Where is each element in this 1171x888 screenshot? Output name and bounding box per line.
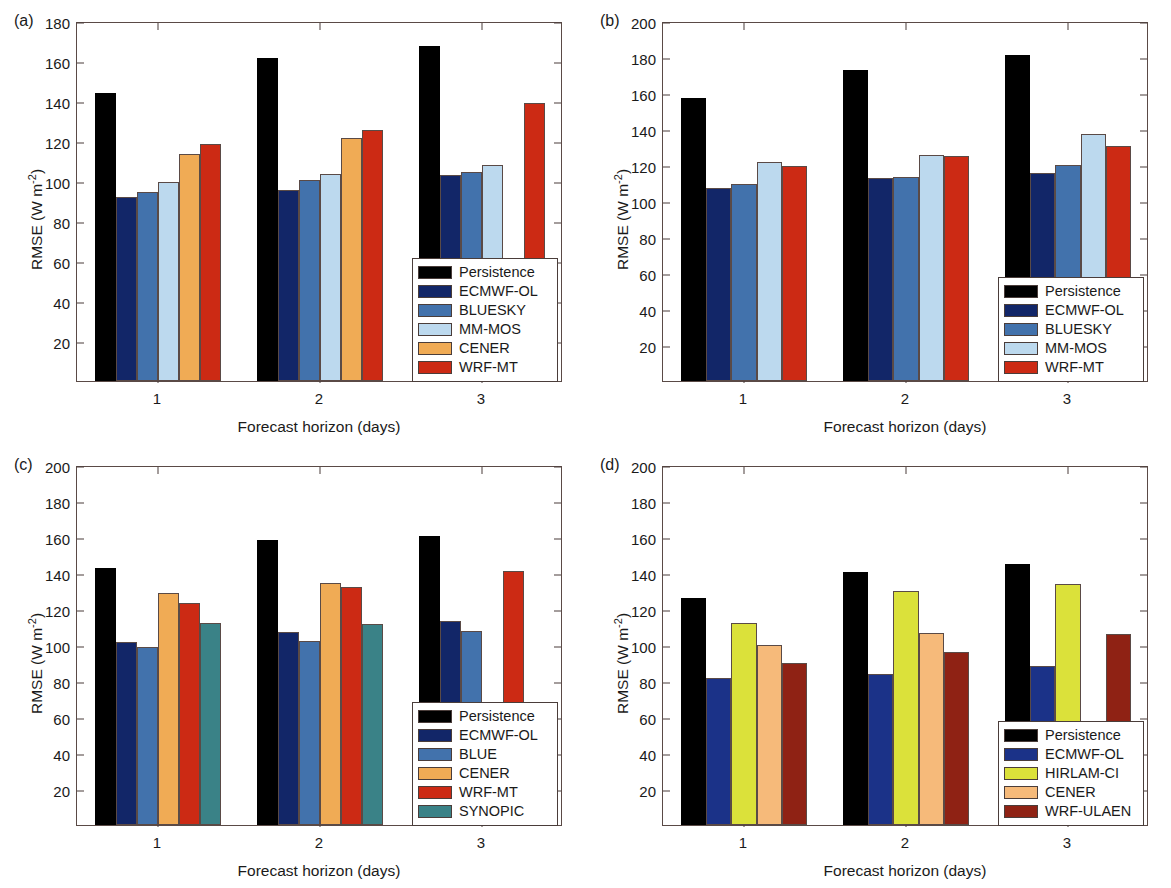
y-tick-mark (77, 303, 84, 304)
y-tick-mark (77, 183, 84, 184)
y-tick-label: 120 (45, 603, 70, 620)
y-tick-mark-right (1140, 167, 1147, 168)
legend-item[interactable]: BLUE (418, 745, 550, 764)
bar-c-cener-day2 (320, 583, 341, 825)
y-tick-label: 80 (53, 215, 70, 232)
bar-a-mm-mos-day2 (320, 174, 341, 381)
legend-item[interactable]: ECMWF-OL (1004, 745, 1136, 764)
legend-swatch-icon (418, 304, 452, 317)
y-tick-mark (663, 467, 670, 468)
x-tick-mark-top (482, 23, 483, 30)
bar-b-ecmwf-ol-day1 (706, 188, 731, 381)
x-tick-label: 1 (153, 390, 161, 407)
legend-item[interactable]: Persistence (1004, 282, 1136, 301)
legend-label: HIRLAM-CI (1045, 766, 1119, 781)
legend-label: WRF-MT (459, 785, 518, 800)
bar-a-cener-day1 (179, 154, 200, 381)
legend-item[interactable]: CENER (1004, 783, 1136, 802)
legend-item[interactable]: WRF-MT (1004, 358, 1136, 377)
legend-swatch-icon (418, 323, 452, 336)
y-tick-mark (663, 95, 670, 96)
y-tick-label: 140 (631, 123, 656, 140)
y-tick-label: 180 (631, 495, 656, 512)
y-tick-mark (77, 755, 84, 756)
x-tick-mark-top (1068, 23, 1069, 30)
legend-item[interactable]: MM-MOS (1004, 339, 1136, 358)
y-tick-mark (663, 239, 670, 240)
y-tick-mark (77, 223, 84, 224)
legend-swatch-icon (418, 710, 452, 723)
legend-item[interactable]: BLUESKY (418, 301, 550, 320)
x-tick-label: 3 (477, 834, 485, 851)
legend-swatch-icon (1004, 729, 1038, 742)
legend-item[interactable]: WRF-MT (418, 358, 550, 377)
legend-item[interactable]: WRF-MT (418, 783, 550, 802)
legend-item[interactable]: Persistence (1004, 726, 1136, 745)
panel-label-a: (a) (14, 12, 34, 30)
y-tick-label: 180 (631, 51, 656, 68)
y-tick-mark-right (554, 467, 561, 468)
y-tick-label: 160 (45, 531, 70, 548)
legend-item[interactable]: Persistence (418, 263, 550, 282)
legend-label: MM-MOS (1045, 341, 1107, 356)
y-tick-mark (77, 23, 84, 24)
y-tick-label: 20 (53, 783, 70, 800)
y-tick-label: 60 (53, 255, 70, 272)
panel-label-b: (b) (600, 12, 620, 30)
legend-label: BLUESKY (1045, 322, 1112, 337)
legend-item[interactable]: HIRLAM-CI (1004, 764, 1136, 783)
y-tick-mark-right (554, 575, 561, 576)
legend-item[interactable]: ECMWF-OL (1004, 301, 1136, 320)
legend-item[interactable]: CENER (418, 339, 550, 358)
legend-a: PersistenceECMWF-OLBLUESKYMM-MOSCENERWRF… (412, 258, 558, 382)
y-axis-label-superscript: -2 (26, 618, 38, 628)
y-tick-label: 140 (45, 95, 70, 112)
legend-item[interactable]: ECMWF-OL (418, 282, 550, 301)
legend-item[interactable]: BLUESKY (1004, 320, 1136, 339)
y-tick-mark (77, 575, 84, 576)
bar-d-ecmwf-ol-day1 (706, 678, 731, 825)
y-tick-mark (77, 503, 84, 504)
y-tick-label: 40 (53, 747, 70, 764)
legend-item[interactable]: SYNOPIC (418, 802, 550, 821)
y-tick-mark-right (1140, 503, 1147, 504)
legend-item[interactable]: WRF-ULAEN (1004, 802, 1136, 821)
legend-label: MM-MOS (459, 322, 521, 337)
y-tick-mark-right (1140, 647, 1147, 648)
y-tick-mark-right (1140, 683, 1147, 684)
bar-c-ecmwf-ol-day2 (278, 632, 299, 825)
x-tick-label: 2 (315, 390, 323, 407)
legend-label: Persistence (1045, 284, 1121, 299)
y-tick-label: 80 (53, 675, 70, 692)
y-tick-mark-right (554, 23, 561, 24)
y-axis-label-text: RMSE (W m (28, 628, 45, 714)
bar-a-wrf-mt-day1 (200, 144, 221, 381)
legend-swatch-icon (418, 342, 452, 355)
panel-label-c: (c) (14, 456, 33, 474)
x-tick-label: 3 (1063, 834, 1071, 851)
legend-label: WRF-MT (1045, 360, 1104, 375)
bar-a-persistence-day2 (257, 58, 278, 381)
y-tick-label: 100 (631, 639, 656, 656)
legend-label: CENER (1045, 785, 1096, 800)
legend-item[interactable]: Persistence (418, 707, 550, 726)
x-axis-label: Forecast horizon (days) (238, 862, 401, 880)
y-tick-label: 80 (639, 231, 656, 248)
y-tick-mark-right (1140, 467, 1147, 468)
legend-label: WRF-MT (459, 360, 518, 375)
y-tick-label: 160 (45, 55, 70, 72)
legend-d: PersistenceECMWF-OLHIRLAM-CICENERWRF-ULA… (998, 721, 1144, 826)
y-axis-label-text: RMSE (W m (614, 628, 631, 714)
bar-d-persistence-day2 (843, 572, 868, 825)
x-tick-mark-top (744, 467, 745, 474)
legend-item[interactable]: ECMWF-OL (418, 726, 550, 745)
y-tick-mark (663, 503, 670, 504)
legend-item[interactable]: CENER (418, 764, 550, 783)
y-tick-mark-right (554, 647, 561, 648)
y-axis-label-suffix: ) (614, 169, 631, 174)
x-tick-label: 2 (315, 834, 323, 851)
x-tick-label: 1 (153, 834, 161, 851)
y-tick-mark-right (1140, 131, 1147, 132)
legend-item[interactable]: MM-MOS (418, 320, 550, 339)
y-tick-mark-right (554, 103, 561, 104)
